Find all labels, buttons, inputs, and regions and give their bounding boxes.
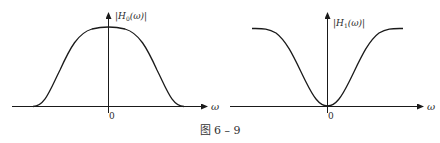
h1-y-label: |H1(ω)| [333, 18, 365, 29]
h1-x-label: ω [427, 101, 435, 112]
figure-caption: 图 6 – 9 [0, 121, 440, 137]
h1-origin-label: 0 [328, 111, 334, 121]
h0-origin-label: 0 [109, 111, 115, 121]
h0-y-label: |H0(ω)| [115, 11, 147, 22]
plot-h0: |H0(ω)| ω 0 [12, 11, 219, 121]
plot-h1: |H1(ω)| ω 0 [230, 13, 435, 121]
h0-x-label: ω [211, 101, 219, 112]
